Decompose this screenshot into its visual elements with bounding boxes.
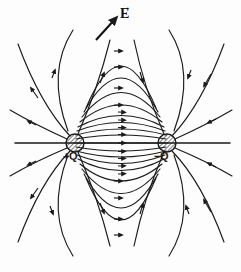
- field-line-canvas: [0, 0, 241, 272]
- inner-line-d1: [76, 147, 166, 151]
- arrowhead-out-left-up1: [31, 88, 38, 98]
- arrowhead-loop-right-down: [188, 70, 191, 78]
- outer-left-up-1: [18, 44, 70, 136]
- field-vector-label: → E: [120, 7, 129, 21]
- arrowhead-in-right-down1: [208, 163, 216, 167]
- arc-upper-1: [80, 105, 162, 122]
- arc-lower-1: [80, 164, 162, 181]
- inner-line-d4: [78, 159, 164, 171]
- arrowhead-in-right-down2: [204, 200, 211, 212]
- outer-left-up-2: [10, 110, 67, 139]
- arc-lower-4: [58, 155, 73, 256]
- field-vector-arrow: [96, 18, 116, 40]
- outer-left-down-1: [10, 148, 67, 176]
- outer-right-down-1: [175, 148, 232, 176]
- arc-upper-5: [169, 30, 184, 131]
- arrowhead-loop-left-down: [50, 206, 53, 214]
- outer-right-down-2: [172, 151, 224, 242]
- inner-line-u1: [76, 135, 166, 139]
- arc-upper-4: [58, 30, 73, 131]
- arc-upper-3: [84, 78, 158, 112]
- dipole-field-figure: → E +Q −Q: [0, 0, 241, 272]
- outer-left-down-2: [18, 151, 70, 242]
- arrowhead-out-left-down2: [31, 188, 38, 198]
- arrowhead-in-right-up2: [208, 119, 216, 123]
- arrowhead-loop-right-up: [186, 206, 189, 214]
- arrowhead-in-right-up1: [204, 74, 211, 86]
- arc-lower-5: [169, 155, 184, 256]
- e-vector-shaft: [96, 18, 116, 40]
- inner-line-u3: [77, 123, 165, 132]
- inner-line-d3: [77, 155, 165, 164]
- negative-charge-label: −Q: [154, 150, 168, 162]
- arrowhead-loop-left-up: [52, 70, 55, 78]
- arc-lower-3: [84, 174, 158, 208]
- outer-right-up-2: [175, 110, 232, 139]
- outer-right-up-1: [172, 44, 224, 136]
- positive-charge-label: +Q: [63, 150, 77, 162]
- inner-line-u4: [78, 116, 164, 128]
